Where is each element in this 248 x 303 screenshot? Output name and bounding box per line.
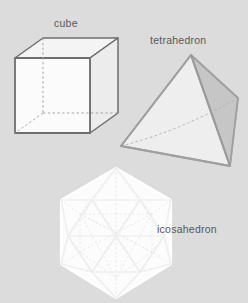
tetrahedron-figure bbox=[121, 55, 238, 166]
label-icosahedron: icosahedron bbox=[157, 224, 217, 235]
label-cube: cube bbox=[54, 18, 78, 29]
cube-face-front bbox=[15, 58, 90, 133]
polyhedra-figure bbox=[0, 0, 248, 303]
cube-figure bbox=[15, 38, 118, 133]
icosahedron-figure bbox=[61, 168, 171, 298]
label-tetrahedron: tetrahedron bbox=[150, 35, 206, 46]
illustration-page: cube tetrahedron icosahedron bbox=[0, 0, 248, 303]
